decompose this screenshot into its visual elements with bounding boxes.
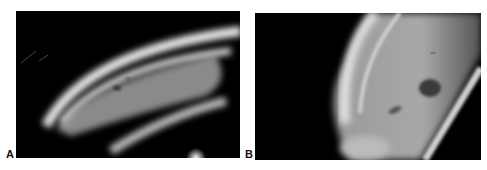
slit-lamp-image-a bbox=[16, 11, 240, 158]
figure-panel-a bbox=[16, 11, 240, 158]
panel-label-a: A bbox=[6, 149, 14, 160]
panel-label-b: B bbox=[245, 149, 253, 160]
slit-lamp-image-b bbox=[255, 13, 481, 160]
figure-panel-b bbox=[255, 13, 481, 160]
